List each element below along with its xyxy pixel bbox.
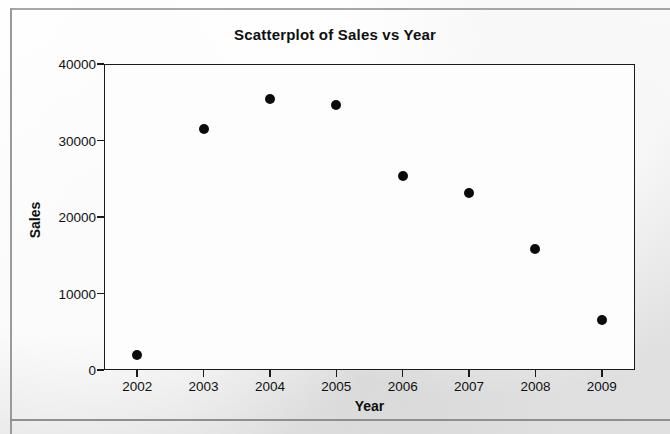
scatterplot-chart: Scatterplot of Sales vs Year 01000020000…: [0, 0, 670, 434]
x-tick-label: 2007: [434, 379, 504, 394]
x-tick-mark: [402, 370, 404, 377]
x-axis-label: Year: [104, 398, 635, 414]
y-axis-label: Sales: [27, 170, 43, 270]
y-tick-label: 30000: [6, 133, 96, 148]
y-tick-mark: [97, 140, 104, 142]
x-tick-mark: [203, 370, 205, 377]
y-tick-mark: [97, 216, 104, 218]
data-point: [132, 350, 142, 360]
y-tick-mark: [97, 369, 104, 371]
x-tick-mark: [136, 370, 138, 377]
x-tick-mark: [535, 370, 537, 377]
y-tick-mark: [97, 63, 104, 65]
x-tick-label: 2008: [500, 379, 570, 394]
data-point: [464, 188, 474, 198]
data-point: [530, 244, 540, 254]
x-tick-label: 2009: [567, 379, 637, 394]
x-tick-label: 2002: [102, 379, 172, 394]
scanned-chart-page: Scatterplot of Sales vs Year 01000020000…: [0, 0, 670, 434]
x-tick-label: 2003: [169, 379, 239, 394]
y-tick-label: 40000: [6, 57, 96, 72]
x-tick-mark: [269, 370, 271, 377]
x-tick-mark: [468, 370, 470, 377]
data-point: [265, 94, 275, 104]
y-tick-mark: [97, 293, 104, 295]
x-tick-mark: [336, 370, 338, 377]
chart-title: Scatterplot of Sales vs Year: [0, 26, 670, 43]
data-point: [398, 171, 408, 181]
x-tick-label: 2004: [235, 379, 305, 394]
x-tick-mark: [601, 370, 603, 377]
y-tick-label: 0: [6, 363, 96, 378]
y-tick-label: 20000: [6, 210, 96, 225]
x-tick-label: 2006: [368, 379, 438, 394]
y-tick-label: 10000: [6, 286, 96, 301]
x-tick-label: 2005: [301, 379, 371, 394]
plot-area: [104, 64, 635, 370]
data-point: [597, 315, 607, 325]
data-point: [199, 124, 209, 134]
data-point: [331, 100, 341, 110]
